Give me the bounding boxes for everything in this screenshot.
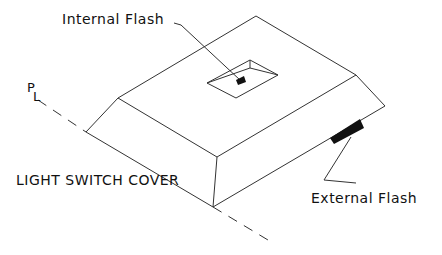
- external-flash-label: External Flash: [311, 190, 417, 206]
- external-flash-leader: [324, 137, 356, 183]
- parting-line-l: L: [33, 89, 41, 104]
- parting-line-2: [213, 207, 268, 240]
- light-switch-cover-drawing: [0, 0, 442, 255]
- parting-line: [38, 100, 86, 132]
- front-edge: [213, 157, 217, 207]
- diagram-title: LIGHT SWITCH COVER: [16, 172, 179, 188]
- top-face: [118, 16, 356, 157]
- internal-flash-label: Internal Flash: [62, 11, 164, 27]
- external-flash-mark: [330, 119, 364, 144]
